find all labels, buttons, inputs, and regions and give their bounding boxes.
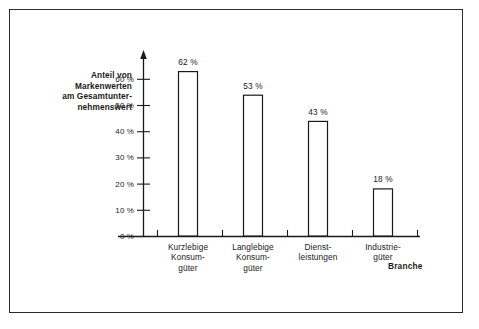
category-label-kurzlebige-konsumgueter: Kurzlebige Konsum- güter: [151, 242, 225, 273]
y-axis: [140, 50, 147, 237]
y-tick-label-30: 30 %: [98, 154, 134, 162]
chart-canvas: [0, 0, 479, 329]
bar-kurzlebige-konsumgueter[interactable]: [179, 72, 198, 236]
y-tick-label-20: 20 %: [98, 181, 134, 189]
y-tick-label-60: 60 %: [98, 76, 134, 84]
y-tick-label-40: 40 %: [98, 128, 134, 136]
bar-series: [179, 72, 393, 236]
category-label-industriegueter: Industrie- güter: [346, 242, 420, 263]
bar-langlebige-konsumgueter[interactable]: [244, 95, 263, 236]
category-label-langlebige-konsumgueter: Langlebige Konsum- güter: [216, 242, 290, 273]
y-tick-label-10: 10 %: [98, 207, 134, 215]
y-tick-label-0: 0 %: [98, 233, 134, 241]
bar-dienstleistungen[interactable]: [309, 121, 328, 236]
bar-value-label-industrie: 18 %: [357, 175, 409, 184]
bar-value-label-dienstleistungen: 43 %: [292, 108, 344, 117]
category-label-dienstleistungen: Dienst- leistungen: [281, 242, 355, 263]
y-tick-label-50: 50 %: [98, 102, 134, 110]
bar-value-label-kurzlebige: 62 %: [162, 58, 214, 67]
x-axis-title: Branche: [388, 261, 423, 271]
bar-value-label-langlebige: 53 %: [227, 82, 279, 91]
bar-industriegueter[interactable]: [374, 189, 393, 236]
